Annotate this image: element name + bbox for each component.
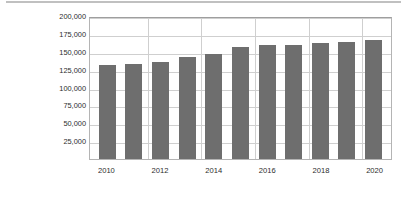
page-top-rule xyxy=(6,1,401,3)
bar-chart-figure: 시장 규모(단위: 백만 달러) 200,000175,000150,00012… xyxy=(0,0,407,201)
bar xyxy=(259,45,276,159)
x-axis-tick-label: 2012 xyxy=(140,166,180,176)
y-axis-tick-label: 150,000 xyxy=(44,49,86,57)
bar xyxy=(285,45,302,159)
y-axis-tick-label: 50,000 xyxy=(44,120,86,128)
plot-area xyxy=(89,17,392,160)
bar xyxy=(179,57,196,159)
y-axis-tick-label: 100,000 xyxy=(44,85,86,93)
bar xyxy=(205,54,222,159)
y-axis-tick-label: 175,000 xyxy=(44,31,86,39)
y-axis-tick-label: 75,000 xyxy=(44,102,86,110)
x-axis-tick-label: 2020 xyxy=(355,166,395,176)
x-axis-tick-label: 2014 xyxy=(194,166,234,176)
x-axis-tick-label: 2010 xyxy=(86,166,126,176)
bar xyxy=(152,62,169,159)
bar xyxy=(312,43,329,159)
x-axis-tick-label: 2018 xyxy=(301,166,341,176)
y-axis-tick-label: 25,000 xyxy=(44,138,86,146)
bar xyxy=(365,40,382,159)
y-axis-tick-labels: 200,000175,000150,000125,000100,00075,00… xyxy=(44,11,86,165)
bar xyxy=(232,47,249,159)
bar xyxy=(99,65,116,159)
y-axis-tick-label: 125,000 xyxy=(44,67,86,75)
bar xyxy=(338,42,355,159)
bar-series xyxy=(90,18,391,159)
x-axis-tick-labels: 201020122014201620182020 xyxy=(89,166,392,178)
y-axis-tick-label: 200,000 xyxy=(44,13,86,21)
bar xyxy=(125,64,142,159)
x-axis-tick-label: 2016 xyxy=(247,166,287,176)
